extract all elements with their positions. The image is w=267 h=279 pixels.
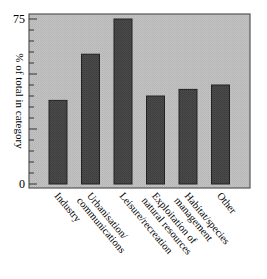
bar [49, 100, 67, 184]
bar [179, 89, 197, 184]
bar [147, 96, 165, 184]
y-tick-label: 0 [19, 177, 25, 191]
x-axis-category-labels: IndustryUrbanisation/communicationsLeisu… [52, 188, 239, 257]
y-axis-label: % of total in category [14, 53, 26, 149]
x-category-label: Other [215, 190, 239, 216]
bar [212, 85, 230, 184]
svg-text:Other: Other [215, 190, 239, 216]
bar-chart: 075 % of total in category IndustryUrban… [0, 0, 267, 279]
y-tick-label: 75 [13, 12, 25, 26]
bar [82, 54, 100, 184]
bar [114, 19, 132, 184]
